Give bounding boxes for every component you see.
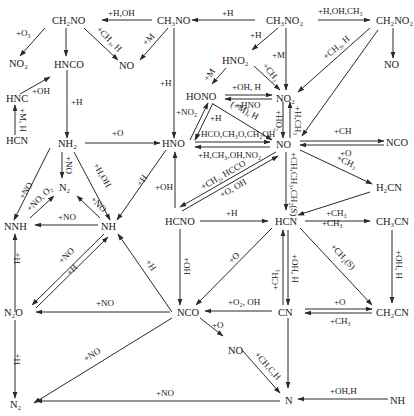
label-ch3no2-to-hno2: +H [250,30,262,40]
label-hno-to-nh: +H [134,173,149,189]
label-n2o-to-nnh: H+ [12,252,22,264]
arrow-nco-to-n2 [34,318,172,403]
label-n2o-to-n2: H+ [12,353,22,365]
species-ch3cn: CH₃CN [376,216,409,227]
species-nh: NH [101,221,117,232]
arrow-ch2no2-to-no2 [298,28,370,92]
label-h2cn-to-hcn: +CH₃ [326,208,347,218]
label-no2-to-no: +HO₂ [274,110,284,131]
species-no-right: NO [384,59,400,70]
species-h2cn: H₂CN [376,182,402,193]
label-nh2-to-hno: +O [112,128,124,138]
label-ch3no-to-hno: +H [160,78,172,88]
label-no-to-hno: +H,CH₃,OH,NO₂ [198,150,261,160]
label-hcno-to-nco: +OH [182,257,192,276]
label-hnco-to-nh2: +H [71,97,83,107]
label-hnc-to-hnco: +OH [32,86,51,96]
label-nco-to-n2o: +NO [96,298,115,308]
label-nh-to-n: +OH,H [330,386,357,396]
label-ch2no-to-no: +CH₃, H [95,24,125,54]
label-cn-to-ch2cn: +O [334,297,346,307]
species-ch2no: CH₂NO [52,15,86,26]
label-hcn-to-cn: +OH, H [290,254,300,284]
label-nco-to-no-low: +O [212,320,224,330]
label-hno-to-no: +HCO,CH₃O,CH₂OH [196,129,276,139]
species-hono: HONO [186,91,217,102]
label-n-to-n2: +NO [156,388,175,398]
arrow-no-to-hcno [180,152,276,207]
label-hcn-to-nco: +O [226,250,242,266]
label-ch2cn-to-cn: +CH₃ [330,316,351,326]
species-nh2: NH₂ [58,138,77,149]
label-nh2-to-n2: +NO [64,156,74,175]
species-n2-bottom: N₂ [10,399,22,410]
label-hcn-to-ch2cn: +CH₂(S) [329,242,358,272]
species-nnh: NNH [4,221,27,232]
label-cn-to-hcn: +CH₃ [270,269,280,290]
label-nco-to-nh: +H [143,257,158,273]
label-hcn-to-hnc: +M, H [18,108,28,133]
label-nco-to-n2: +NO [82,345,103,363]
species-hnco: HNCO [54,59,84,70]
label-cn-to-nco: +O₂, OH [228,297,261,307]
arrow-hcn-to-nco [196,228,272,305]
species-n: N [285,395,293,406]
label-ch3no2-to-no2: +M [272,50,285,60]
species-no: NO [276,139,292,150]
label-hcn-to-ch3cn: +CH₃ [322,218,343,228]
reaction-pathway-diagram: CH₂NO CH₃NO CH₃NO₂ CH₂NO₂ NO₂ HNCO NO NO… [0,0,414,416]
label-ch3no-to-no: +M [140,31,156,47]
label-hno-to-hono: +NO₂ [176,107,197,117]
label-ch2no-to-no2: +O₃ [16,28,31,38]
arrow-hcn-to-ch2cn [300,228,372,305]
species-n2-mid: N₂ [59,182,71,193]
label-no-low-to-n: +CH,C,H [253,350,284,383]
label-no-to-no2: +H,CH₃ [293,106,303,135]
species-hno2: HNO₂ [222,55,249,66]
label-ch3cn-to-ch2cn: +OH, H [394,250,404,280]
species-ch3no2: CH₃NO₂ [266,15,303,26]
arrow-no-to-h2cn [300,150,372,184]
species-ch2no2: CH₂NO₂ [376,15,413,26]
label-no-to-nco: +CH [334,126,352,136]
species-nco-right: NCO [386,137,409,148]
label-hcno-to-hno: +OH [155,182,174,192]
species-nco: NCO [177,307,200,318]
label-hno2-to-no2: +CH₃ [260,61,281,83]
label-hcno-to-hcn: +H [226,208,238,218]
species-no2: NO₂ [276,93,295,104]
species-nh-bottom: NH [390,395,406,406]
species-hcn-left: HCN [6,135,29,146]
label-ch3no2-to-ch2no2: +H,OH,CH₃ [318,6,363,16]
species-n2o: N₂O [4,307,23,318]
label-ch3no2-to-ch3no: +H [222,8,234,18]
label-nh-to-nnh: +NO [58,212,77,222]
label-hono-to-no2: +OH, H [232,82,262,92]
label-no-to-hcn: +CH,CH₃,CH₂(S) [289,152,299,216]
species-no2-left: NO₂ [9,58,28,69]
species-no-top: NO [119,60,135,71]
species-no-low: NO [228,345,244,356]
label-nh-to-n2o: +NO [56,245,76,265]
arrow-nco-to-nh [118,234,172,312]
species-ch3no: CH₃NO [157,15,191,26]
species-hno: HNO [162,138,185,149]
label-ch3no-to-ch2no: +H,OH [108,8,135,18]
label-hono-to-hno: +H [210,113,222,123]
label-n2o-to-nh: +H [64,262,80,278]
species-ch2cn: CH₂CN [376,307,409,318]
species-cn: CN [278,307,293,318]
species-hcno: HCNO [165,216,195,227]
species-hcn: HCN [275,216,298,227]
label-nh2-to-nh: +H,OH [91,161,113,190]
species-hnc: HNC [6,93,28,104]
